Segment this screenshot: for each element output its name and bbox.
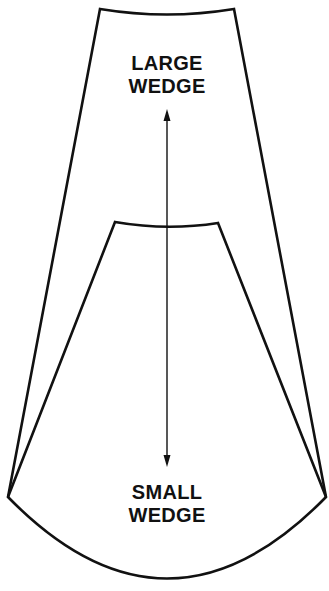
large-wedge-label-line2: WEDGE: [107, 75, 227, 98]
small-wedge-label: SMALL WEDGE: [107, 481, 227, 527]
large-wedge-label-line1: LARGE: [107, 52, 227, 75]
small-wedge-label-line1: SMALL: [107, 481, 227, 504]
small-wedge-label-line2: WEDGE: [107, 504, 227, 527]
arrow-head-down-icon: [164, 455, 171, 467]
large-wedge-label: LARGE WEDGE: [107, 52, 227, 98]
arrow-head-up-icon: [164, 109, 171, 121]
